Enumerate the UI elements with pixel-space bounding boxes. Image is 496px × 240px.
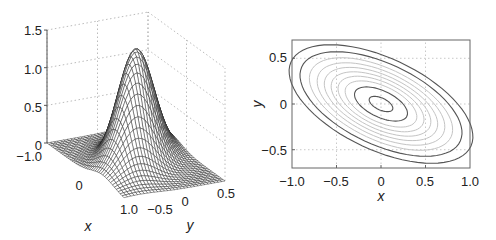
contour-x-tick-1: 1.0 xyxy=(461,174,479,189)
surface-y-label: y xyxy=(186,217,195,233)
x-tick-neg1: −1.0 xyxy=(16,149,42,164)
x-tick-1: 1.0 xyxy=(120,202,138,217)
x-tick-0: 0 xyxy=(75,178,82,193)
z-tick-1-0: 1.0 xyxy=(24,62,42,77)
contour-x-tick-0: 0 xyxy=(377,174,384,189)
contour-x-tick-neg05: −0.5 xyxy=(323,174,349,189)
y-tick-05: 0.5 xyxy=(217,186,235,201)
y-tick-0: 0 xyxy=(181,194,188,209)
contour-y-tick-neg05: −0.5 xyxy=(261,143,287,158)
y-tick-neg05: −0.5 xyxy=(147,202,173,217)
contour-y-label: y xyxy=(249,100,265,109)
figure: 1.5 1.0 0.5 0 −1.0 0 1.0 −0.5 0 0.5 x y … xyxy=(0,0,496,240)
z-tick-0-5: 0.5 xyxy=(24,100,42,115)
surface-x-label: x xyxy=(84,218,93,234)
contour-y-tick-05: 0.5 xyxy=(269,50,287,65)
contour-x-tick-neg1: −1.0 xyxy=(279,174,305,189)
contour-x-tick-05: 0.5 xyxy=(416,174,434,189)
z-tick-1-5: 1.5 xyxy=(24,23,42,38)
contour-y-tick-0: 0 xyxy=(280,97,287,112)
surface-mesh xyxy=(47,49,225,198)
contour-gridlines xyxy=(292,40,470,168)
contour-x-label: x xyxy=(377,188,386,204)
